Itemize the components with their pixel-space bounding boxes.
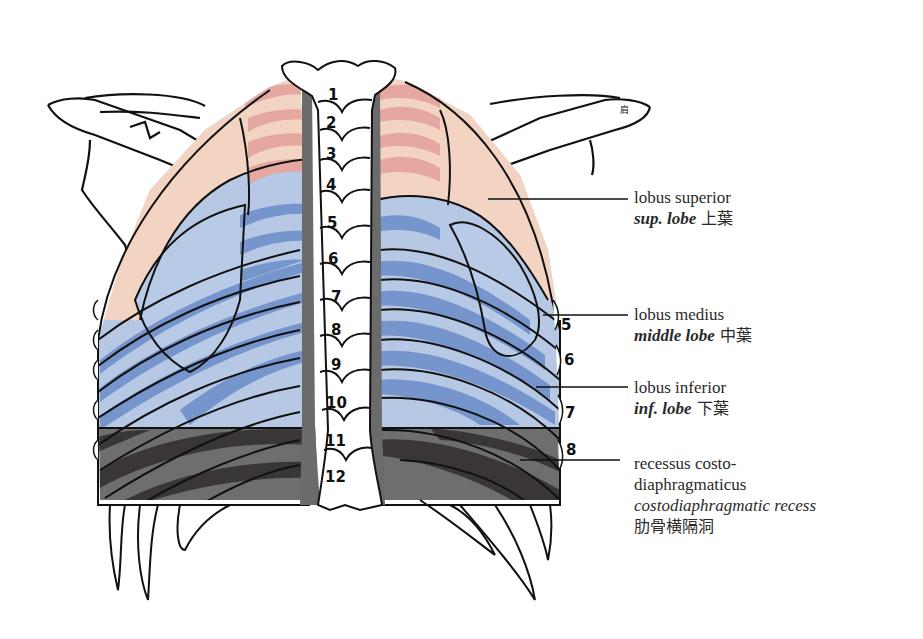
left-lung [90,60,330,510]
english-name: sup. lobe [634,209,696,228]
thorax-diagram: 1 2 3 4 5 6 7 8 9 10 11 12 5 6 7 8 肩 [0,0,923,639]
rib-number: 7 [565,404,575,422]
japanese-name: 上葉 [701,209,733,228]
vertebra-number: 4 [326,176,336,194]
right-lung [360,60,575,510]
japanese-name: 中葉 [720,326,752,345]
label-superior-lobe: lobus superior sup. lobe上葉 [634,187,733,229]
label-middle-lobe: lobus medius middle lobe中葉 [634,304,752,346]
vertebra-number: 11 [325,432,346,450]
english-name: inf. lobe [634,399,692,418]
vertebra-number: 9 [331,356,341,374]
vertebra-number: 7 [331,288,341,306]
vertebra-number: 1 [328,86,338,104]
label-inferior-lobe: lobus inferior inf. lobe下葉 [634,377,729,419]
vertebra-number: 5 [327,214,337,232]
latin-name: lobus superior [634,187,733,208]
latin-name-line2: diaphragmaticus [634,474,816,495]
rib-number: 6 [564,351,574,369]
lower-ribs [109,500,551,600]
latin-name: lobus inferior [634,377,729,398]
corner-mark: 肩 [620,104,629,115]
vertebra-number: 10 [326,394,347,412]
japanese-name: 下葉 [697,399,729,418]
label-costodiaphragmatic-recess: recessus costo- diaphragmaticus costodia… [634,453,816,537]
rib-number: 5 [561,316,571,334]
vertebra-number: 3 [326,145,336,163]
english-name: costodiaphragmatic recess [634,496,816,515]
rib-number: 8 [566,441,576,459]
latin-name-line1: recessus costo- [634,453,816,474]
vertebra-number: 8 [331,321,341,339]
vertebra-number: 2 [326,114,336,132]
latin-name: lobus medius [634,304,752,325]
japanese-name: 肋骨横隔洞 [634,517,714,536]
english-name: middle lobe [634,326,715,345]
vertebra-number: 12 [325,468,346,486]
vertebra-number: 6 [328,250,338,268]
